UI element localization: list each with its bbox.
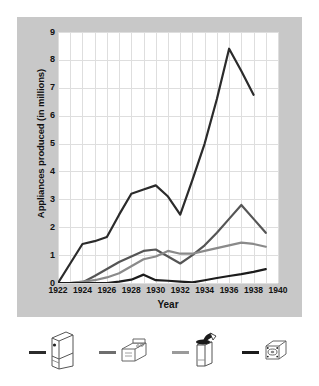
x-axis-ticks: 1922192419261928193019321934193619381940 [40, 286, 300, 300]
washing-machine-icon [192, 332, 218, 372]
y-axis-tick-label: 3 [39, 195, 55, 204]
legend-swatch [172, 351, 189, 354]
legend-item-washing-machine[interactable] [172, 332, 218, 372]
washing-machine-icon [192, 332, 218, 368]
y-axis-tick-label: 9 [39, 28, 55, 37]
y-axis-ticks: 0123456789 [38, 32, 55, 283]
refrigerator-icon [49, 330, 75, 370]
x-axis-title: Year [58, 299, 278, 310]
y-axis-tick-label: 1 [39, 251, 55, 260]
y-axis-tick-label: 4 [39, 167, 55, 176]
legend-swatch [29, 351, 46, 354]
x-axis-tick-label: 1940 [264, 286, 292, 295]
stove-icon [119, 337, 149, 367]
legend-swatch [242, 351, 259, 354]
legend-swatch [99, 351, 116, 354]
chart-legend [17, 325, 302, 379]
y-axis-tick-label: 7 [39, 83, 55, 92]
gridline-horizontal [58, 283, 278, 284]
data-lines [58, 32, 278, 283]
y-axis-title-container: Appliances produced (in millions) [24, 30, 38, 280]
vacuum-icon [262, 338, 290, 366]
line-refrigerator [58, 49, 254, 283]
plot-area [58, 32, 278, 283]
y-axis-tick-label: 2 [39, 223, 55, 232]
gridline-vertical [278, 32, 279, 283]
stove-icon [119, 337, 149, 363]
line-washing-machine [58, 243, 266, 283]
legend-item-stove[interactable] [99, 337, 149, 367]
legend-item-vacuum[interactable] [242, 338, 290, 366]
y-axis-tick-label: 5 [39, 139, 55, 148]
y-axis-tick-label: 6 [39, 111, 55, 120]
vacuum-icon [262, 338, 290, 362]
legend-item-refrigerator[interactable] [29, 330, 75, 374]
refrigerator-icon [49, 330, 75, 374]
y-axis-tick-label: 8 [39, 55, 55, 64]
chart-screenshot: Appliances produced (in millions) 012345… [0, 0, 319, 386]
